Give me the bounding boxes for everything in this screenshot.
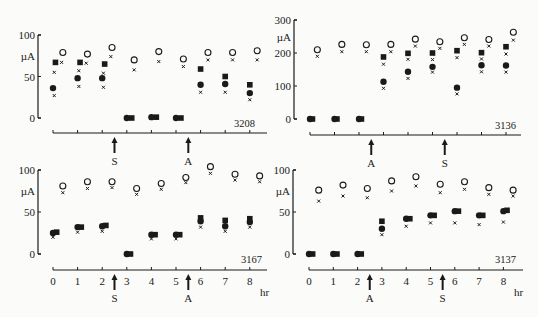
y-axis-unit-label: µA	[276, 185, 290, 197]
x-axis-unit-label: hr	[260, 286, 270, 298]
y-tick-label: 0	[30, 248, 36, 260]
event-label: A	[184, 155, 192, 167]
data-point	[430, 50, 436, 56]
data-point	[258, 180, 261, 183]
event-label: S	[111, 292, 117, 304]
data-point	[61, 191, 64, 194]
data-point	[479, 50, 485, 56]
data-point	[148, 114, 154, 120]
event-arrow-a: A	[367, 139, 375, 169]
data-point	[222, 74, 228, 80]
data-point	[86, 187, 89, 190]
x-tick-label: 4	[149, 275, 155, 287]
data-point	[480, 57, 483, 60]
data-point	[512, 195, 515, 198]
data-point	[206, 58, 209, 61]
event-arrow-a: A	[184, 274, 192, 304]
data-point	[502, 221, 505, 224]
y-tick-label: 200	[275, 47, 292, 59]
data-point	[84, 51, 90, 57]
data-point	[234, 179, 237, 182]
data-point	[60, 49, 66, 55]
series-filled-square	[53, 60, 253, 121]
x-tick-label: 6	[198, 275, 204, 287]
x-tick-label: 5	[173, 275, 179, 287]
data-point	[456, 92, 459, 95]
data-point	[317, 200, 320, 203]
data-point	[316, 187, 322, 193]
event-arrow-a: A	[366, 274, 374, 304]
series-cross-high	[316, 39, 515, 58]
data-point	[316, 55, 319, 58]
data-point	[314, 47, 320, 53]
data-point	[461, 35, 467, 41]
event-label: A	[366, 292, 374, 304]
chart-panel-3167: 050100µA0123456783167hrSA	[19, 164, 270, 304]
data-point	[102, 72, 105, 75]
y-tick-label: 0	[285, 248, 291, 260]
data-point	[429, 64, 435, 70]
panel-id-label: 3137	[495, 254, 516, 265]
data-point	[405, 225, 408, 228]
data-point	[380, 233, 383, 236]
data-point	[456, 56, 459, 59]
data-point	[382, 63, 385, 66]
event-arrow-a: A	[184, 137, 192, 167]
data-point	[414, 45, 417, 48]
data-point	[53, 94, 56, 97]
data-point	[452, 208, 458, 214]
data-point	[342, 195, 345, 198]
data-point	[134, 185, 140, 191]
data-point	[403, 216, 409, 222]
data-point	[77, 60, 83, 66]
y-axis-unit-label: µA	[277, 31, 291, 43]
data-point	[256, 58, 259, 61]
y-tick-label: 50	[24, 71, 36, 83]
data-point	[505, 71, 508, 74]
series-filled-circle	[307, 62, 509, 122]
data-point	[439, 191, 442, 194]
data-point	[224, 230, 227, 233]
data-point	[248, 98, 251, 101]
series-cross-low	[382, 70, 508, 95]
data-point	[437, 39, 443, 45]
y-tick-label: 50	[24, 206, 36, 218]
data-point	[50, 85, 56, 91]
event-arrow-s: S	[442, 139, 448, 169]
data-point	[487, 193, 490, 196]
data-point	[131, 57, 137, 63]
data-point	[158, 180, 164, 186]
x-tick-label: 8	[247, 275, 253, 287]
data-point	[209, 172, 212, 175]
data-point	[307, 116, 313, 122]
data-point	[111, 186, 114, 189]
data-point	[183, 175, 189, 181]
data-point	[133, 68, 136, 71]
data-point	[50, 230, 56, 236]
data-point	[197, 218, 203, 224]
data-point	[503, 44, 509, 50]
data-point	[453, 221, 456, 224]
data-point	[109, 44, 115, 50]
x-tick-label: 7	[222, 275, 228, 287]
data-point	[487, 45, 490, 48]
data-point	[254, 48, 260, 54]
data-point	[437, 181, 443, 187]
series-open-circle	[314, 29, 516, 52]
data-point	[247, 82, 253, 88]
data-point	[381, 54, 387, 60]
data-point	[199, 91, 202, 94]
data-point	[205, 49, 211, 55]
data-point	[60, 183, 66, 189]
data-point	[356, 116, 362, 122]
data-point	[431, 71, 434, 74]
panel-id-label: 3208	[234, 118, 255, 129]
data-point	[257, 173, 263, 179]
data-point	[389, 178, 395, 184]
data-point	[463, 188, 466, 191]
series-cross-high	[60, 55, 259, 71]
data-point	[207, 164, 213, 170]
data-point	[53, 60, 59, 66]
y-tick-label: 100	[274, 164, 291, 176]
chart-panel-3136: 0100200300µA3136AS	[275, 14, 522, 169]
